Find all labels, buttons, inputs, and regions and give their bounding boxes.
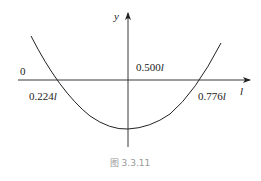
y-axis-label: y bbox=[113, 10, 119, 22]
parabola-curve bbox=[31, 36, 221, 129]
diagram: y l 0 0.224l 0.500l 0.776l 图 3.3.11 bbox=[0, 0, 261, 181]
x-axis-label: l bbox=[240, 85, 243, 97]
right-root-label: 0.776l bbox=[198, 90, 226, 102]
left-root-label: 0.224l bbox=[29, 90, 57, 102]
origin-label: 0 bbox=[20, 65, 26, 77]
figure-caption: 图 3.3.11 bbox=[110, 158, 151, 168]
center-label: 0.500l bbox=[136, 61, 164, 73]
